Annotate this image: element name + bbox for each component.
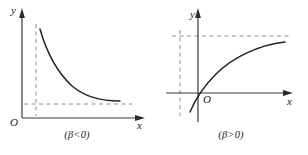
y-axis-label: y [190,9,195,20]
caption-beta-positive: (β>0) [154,129,308,140]
curve-beta-negative [40,29,120,101]
origin-label: O [203,94,211,105]
panel-beta-positive: y x O (β>0) [154,0,308,155]
y-axis-arrowhead [19,8,25,18]
caption-beta-negative: (β<0) [0,129,154,140]
plot-beta-negative [0,0,154,135]
y-axis-label: y [11,5,16,16]
y-axis-arrowhead [195,8,201,18]
plot-beta-positive [154,0,308,135]
x-axis-label: x [287,96,292,107]
panel-beta-negative: y x O (β<0) [0,0,154,155]
origin-label: O [10,117,18,128]
math-figure-two-panels: y x O (β<0) y x O (β>0) [0,0,308,155]
